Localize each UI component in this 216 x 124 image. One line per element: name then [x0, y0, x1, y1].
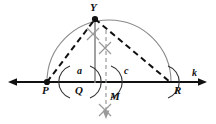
point-label-m: M: [110, 91, 120, 102]
point-label-p: P: [42, 85, 49, 96]
line-k-left-arrowhead: [8, 78, 17, 86]
geometry-diagram: Y P Q R M a c k: [0, 0, 216, 124]
point-label-r: R: [174, 85, 181, 96]
segment-label-a: a: [77, 66, 82, 76]
x-mark-middle: [99, 42, 111, 54]
semicircle-arc: [47, 20, 171, 82]
line-label-k: k: [192, 68, 197, 78]
point-y-dot: [92, 16, 98, 22]
point-label-q: Q: [75, 85, 83, 96]
line-k-right-arrowhead: [198, 78, 207, 86]
point-label-y: Y: [90, 2, 97, 13]
diagram-canvas: [0, 0, 216, 124]
segment-label-c: c: [124, 66, 128, 76]
x-mark-upper: [87, 28, 99, 40]
